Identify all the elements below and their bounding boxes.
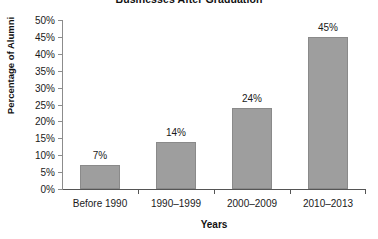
y-axis-tick — [58, 172, 63, 173]
bar — [80, 165, 120, 189]
y-axis-tick — [58, 189, 63, 190]
x-axis-tick — [365, 189, 366, 194]
y-axis-tick-label: 35% — [35, 65, 55, 76]
y-axis-tick-label: 0% — [41, 184, 55, 195]
y-axis-tick — [58, 20, 63, 21]
y-axis-title: Percentage of Alumni — [5, 6, 16, 126]
y-axis-tick-label: 15% — [35, 133, 55, 144]
y-axis-tick — [58, 54, 63, 55]
y-axis-tick-label: 25% — [35, 99, 55, 110]
bar — [156, 142, 196, 189]
y-axis-tick-label: 10% — [35, 150, 55, 161]
bar-value-label: 45% — [318, 22, 338, 33]
x-axis-category-label: 1990–1999 — [151, 198, 201, 209]
bar — [308, 37, 348, 189]
y-axis-tick — [58, 71, 63, 72]
bar-value-label: 7% — [93, 150, 107, 161]
x-axis-tick — [290, 189, 291, 194]
y-axis-tick-label: 45% — [35, 31, 55, 42]
chart-title: Businesses After Graduation — [0, 0, 378, 5]
bar-chart-figure: Businesses After Graduation Percentage o… — [0, 0, 378, 239]
y-axis-tick — [58, 121, 63, 122]
y-axis-tick — [58, 138, 63, 139]
bar-value-label: 24% — [242, 93, 262, 104]
y-axis-tick-label: 5% — [41, 167, 55, 178]
y-axis-tick-label: 30% — [35, 82, 55, 93]
y-axis-tick — [58, 155, 63, 156]
x-axis-category-label: 2000–2009 — [227, 198, 277, 209]
y-axis-tick — [58, 88, 63, 89]
bar-value-label: 14% — [166, 127, 186, 138]
y-axis-tick-label: 40% — [35, 48, 55, 59]
y-axis-tick-label: 20% — [35, 116, 55, 127]
x-axis-tick — [214, 189, 215, 194]
bar — [232, 108, 272, 189]
plot-area: 0%5%10%15%20%25%30%35%40%45%50% 7%14%24%… — [62, 20, 366, 189]
y-axis-tick-label: 50% — [35, 15, 55, 26]
y-axis-tick — [58, 37, 63, 38]
x-axis-tick — [138, 189, 139, 194]
y-axis-tick — [58, 105, 63, 106]
x-axis-title: Years — [62, 219, 366, 230]
x-axis-category-label: 2010–2013 — [303, 198, 353, 209]
x-axis-category-label: Before 1990 — [73, 198, 128, 209]
